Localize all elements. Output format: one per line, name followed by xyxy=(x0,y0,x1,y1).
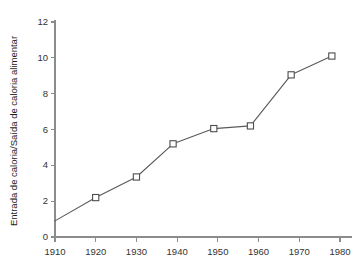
x-tick-label: 1940 xyxy=(167,246,188,257)
x-tick-label: 1970 xyxy=(289,246,310,257)
data-point-marker xyxy=(211,126,217,132)
y-tick-label: 2 xyxy=(43,195,48,206)
data-point-marker xyxy=(170,141,176,147)
y-axis-title-group: Entrada de caloria/Saída de caloria alim… xyxy=(8,36,19,226)
y-tick-label: 0 xyxy=(43,231,48,242)
y-axis-ticks: 024681012 xyxy=(37,16,55,242)
chart-page: Entrada de caloria/Saída de caloria alim… xyxy=(0,0,364,269)
x-tick-label: 1960 xyxy=(248,246,269,257)
data-point-marker xyxy=(93,194,99,200)
y-tick-label: 12 xyxy=(37,16,48,27)
x-tick-label: 1930 xyxy=(126,246,147,257)
data-point-marker xyxy=(247,123,253,129)
x-tick-label: 1950 xyxy=(207,246,228,257)
data-point-marker xyxy=(329,53,335,59)
line-chart: Entrada de caloria/Saída de caloria alim… xyxy=(0,0,364,269)
y-axis-title: Entrada de caloria/Saída de caloria alim… xyxy=(8,36,19,226)
x-tick-label: 1910 xyxy=(44,246,65,257)
y-tick-label: 4 xyxy=(43,159,48,170)
x-axis-ticks: 19101920193019401950196019701980 xyxy=(44,237,350,257)
y-tick-label: 6 xyxy=(43,124,48,135)
y-tick-label: 10 xyxy=(37,52,48,63)
y-tick-label: 8 xyxy=(43,88,48,99)
x-tick-label: 1920 xyxy=(85,246,106,257)
series-markers xyxy=(93,53,335,201)
data-point-marker xyxy=(133,174,139,180)
data-point-marker xyxy=(288,72,294,78)
x-tick-label: 1980 xyxy=(329,246,350,257)
